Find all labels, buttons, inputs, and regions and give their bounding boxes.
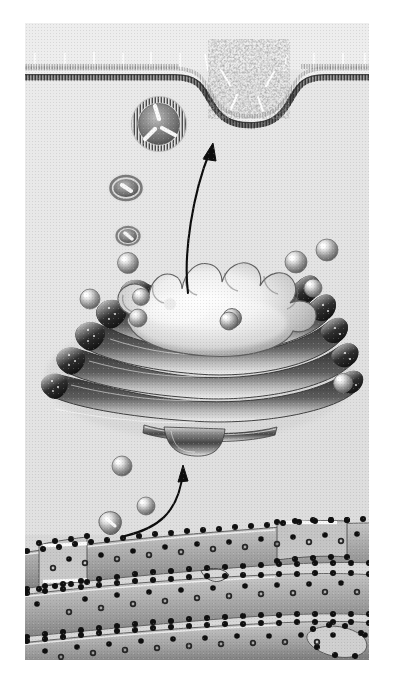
- transport-vesicle: [80, 289, 100, 309]
- transport-vesicle: [220, 312, 238, 330]
- er-cisterna-right: [277, 521, 347, 560]
- secretory-granule-large: [132, 97, 187, 152]
- transport-vesicle: [304, 279, 322, 297]
- transport-vesicle: [334, 374, 353, 393]
- transport-vesicle: [133, 289, 150, 306]
- secreted-material: [215, 46, 283, 112]
- transport-vesicle: [316, 239, 338, 261]
- condensing-vacuole-lower: [115, 226, 141, 247]
- transport-vesicle: [112, 456, 132, 476]
- condensing-vacuole-upper: [109, 175, 143, 202]
- transport-vesicle: [137, 497, 155, 515]
- illustration-plate: [25, 23, 369, 660]
- transport-vesicle: [118, 253, 139, 274]
- transport-vesicle: [285, 251, 307, 273]
- extracellular-space: [25, 23, 369, 70]
- figure-root: Secretory pathway of a glandular cell ex…: [0, 0, 393, 691]
- rough-endoplasmic-reticulum: [25, 516, 369, 660]
